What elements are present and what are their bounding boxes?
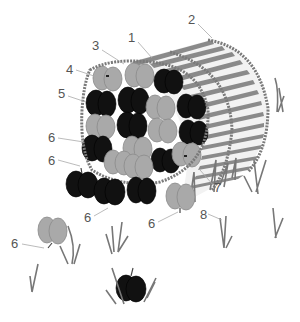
callout-1: 1 (128, 30, 135, 45)
callout-6d: 6 (148, 216, 155, 231)
callout-2: 2 (188, 12, 195, 27)
callout-4: 4 (66, 62, 73, 77)
callout-6e: 6 (11, 236, 18, 251)
dark-apple-bottom (116, 268, 146, 302)
dark-apple (154, 69, 183, 94)
light-apple-far-left (38, 217, 67, 248)
grass-tuft-center (106, 222, 128, 254)
callout-6c: 6 (84, 210, 91, 225)
dark-apple (117, 112, 147, 139)
callout-6a: 6 (48, 130, 55, 145)
dark-apple (179, 120, 208, 145)
light-apple (124, 154, 153, 179)
light-apple-spilled-right (166, 183, 195, 213)
dark-apple (177, 94, 206, 119)
grass-tuft-top-right (275, 78, 284, 112)
grass-tuft-far-left (30, 264, 38, 292)
grass-tuft (220, 216, 232, 248)
callout-8: 8 (200, 207, 207, 222)
light-apple (148, 118, 177, 143)
basket-apples-illustration: 1 2 3 4 5 6 6 6 6 6 7 8 (0, 0, 300, 322)
dark-apple (118, 87, 149, 114)
light-apple (125, 63, 154, 88)
dark-apple (127, 177, 156, 204)
dark-apple (86, 90, 116, 117)
grass-tuft-bottom-right (147, 282, 155, 298)
light-apple (146, 95, 175, 120)
grass-tuft-right (273, 208, 283, 238)
light-apple-top-left (93, 66, 122, 91)
callout-6b: 6 (48, 153, 55, 168)
callout-5: 5 (58, 86, 65, 101)
callout-3: 3 (92, 38, 99, 53)
dark-apple-spilled-bottom (94, 178, 125, 205)
callout-7: 7 (214, 180, 221, 195)
